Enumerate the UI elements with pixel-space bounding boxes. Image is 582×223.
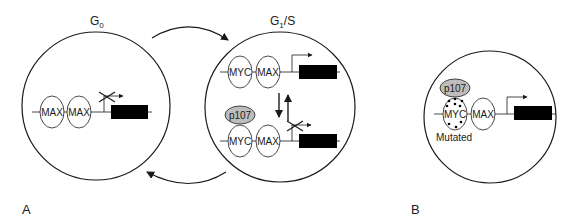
p107-label: p107 <box>229 110 252 121</box>
max-label: MAX <box>257 67 279 78</box>
max-label: MAX <box>68 107 90 118</box>
g1s-cell-outline <box>205 32 355 182</box>
max-label: MAX <box>257 136 279 147</box>
myc-max-diagram: G0 MAX MAX G1/S MYC MAX p1 <box>0 0 582 223</box>
g1s-label: G1/S <box>270 14 295 30</box>
target-gene-box <box>299 134 337 148</box>
myc-label: MYC <box>229 136 251 147</box>
mutated-label: Mutated <box>436 132 472 143</box>
p107-label: p107 <box>444 83 467 94</box>
g0-label: G0 <box>90 14 104 30</box>
cycle-arrow-forward <box>152 27 228 40</box>
cycle-arrow-backward <box>147 172 226 184</box>
panel-label-a: A <box>22 202 31 217</box>
panel-label-b: B <box>411 202 420 217</box>
target-gene-box <box>111 105 148 119</box>
myc-label: MYC <box>229 67 251 78</box>
target-gene-box <box>299 65 337 79</box>
max-label: MAX <box>41 107 63 118</box>
target-gene-box <box>514 106 552 120</box>
g0-cell: G0 MAX MAX <box>22 14 170 180</box>
myc-label: MYC <box>444 109 466 120</box>
mutant-cell: p107 MYC MAX Mutated <box>424 51 556 183</box>
max-label: MAX <box>472 109 494 120</box>
